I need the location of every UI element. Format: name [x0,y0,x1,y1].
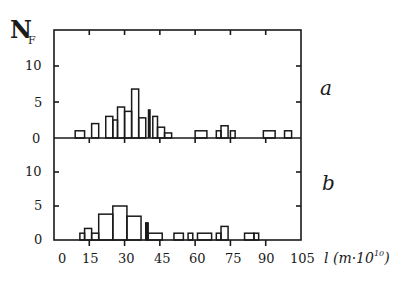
histogram-bin [139,118,146,138]
x-axis-title: l (m·1010) [324,249,390,266]
x-tick-label-0: 0 [58,251,66,266]
y-tick-label-b-10: 10 [25,164,42,179]
histogram-bin [188,233,193,240]
histogram-bin [285,131,292,138]
panel-b-histogram [80,206,259,240]
x-tick-label-45: 45 [154,251,171,266]
y-tick-label-a-5: 5 [34,95,42,110]
panel-label-a: a [320,76,332,100]
histogram-bin [221,226,228,240]
histogram-bin [263,131,275,138]
histogram-bin [158,127,165,138]
y-tick-label-b-5: 5 [34,198,42,213]
histogram-bin [125,111,132,138]
histogram-bin [148,233,162,240]
panel-a-histogram [75,89,291,138]
histogram-bin [245,233,254,240]
histogram-bin [197,233,211,240]
histogram-bin [92,233,99,240]
x-tick-label-105: 105 [290,251,315,266]
histogram-bin [230,131,235,138]
histogram-bin [254,233,259,240]
histogram-bin [113,206,127,240]
histogram-bin [221,126,228,138]
histogram-bin [85,228,92,240]
x-axis-title-close: ) [383,250,389,266]
histogram-bin [106,116,113,138]
histogram-bin [99,214,113,240]
histogram-bin [127,216,141,240]
panel-label-b: b [322,171,335,195]
histogram-bin [92,124,99,138]
x-tick-label-30: 30 [118,251,135,266]
histogram-figure: N F 0 5 10 0 5 10 0 15 30 45 60 75 90 10… [0,0,408,288]
histogram-bin [132,89,139,138]
y-tick-label-a-0: 0 [32,131,40,146]
x-tick-label-75: 75 [225,251,242,266]
x-tick-label-15: 15 [82,251,99,266]
histogram-bin [118,107,125,138]
y-axis-title-subscript: F [28,34,36,47]
x-tick-label-60: 60 [189,251,206,266]
histogram-bin [195,131,207,138]
x-axis-title-main: l (m·10 [324,250,374,266]
histogram-bin [75,131,84,138]
y-tick-label-b-0: 0 [34,232,42,247]
x-tick-label-90: 90 [258,251,275,266]
x-axis-title-exponent: 10 [374,249,384,258]
histogram-bin [174,233,183,240]
y-tick-label-a-10: 10 [25,58,42,73]
